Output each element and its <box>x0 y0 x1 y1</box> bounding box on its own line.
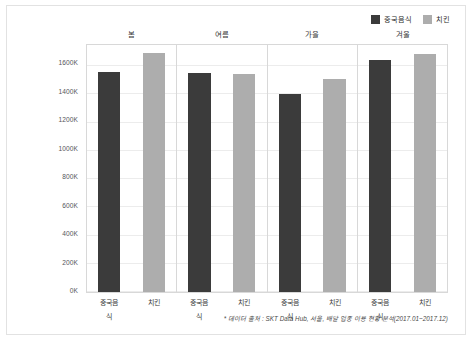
facet-header-1: 봄 <box>86 28 177 42</box>
x-axis-group-2: 중국음식치킨 <box>177 296 268 310</box>
bar-slot <box>188 45 210 292</box>
bar-slot <box>369 45 391 292</box>
facet-panel-3 <box>268 45 358 292</box>
x-tick-label-여름-중국음식: 중국음식 <box>188 296 211 310</box>
x-tick-label-봄-치킨: 치킨 <box>143 296 166 310</box>
bar-slot <box>98 45 120 292</box>
bar-slot <box>323 45 345 292</box>
facet-panel-1 <box>87 45 177 292</box>
x-axis-group-1: 중국음식치킨 <box>86 296 177 310</box>
legend-entry-2[interactable]: 치킨 <box>423 15 450 24</box>
bar-가을-중국음식[interactable] <box>279 94 301 292</box>
y-tick-label-7: 1400K <box>58 87 78 94</box>
bar-slot <box>233 45 255 292</box>
bar-봄-치킨[interactable] <box>143 53 165 292</box>
y-tick-label-2: 400K <box>62 230 78 237</box>
x-tick-label-여름-치킨: 치킨 <box>233 296 256 310</box>
bar-겨울-치킨[interactable] <box>414 54 436 292</box>
legend-swatch-icon <box>371 15 380 24</box>
legend-label: 치킨 <box>436 15 450 24</box>
x-axis: 중국음식치킨중국음식치킨중국음식치킨중국음식치킨 <box>86 296 448 310</box>
x-axis-group-4: 중국음식치킨 <box>358 296 449 310</box>
facet-header-3: 가을 <box>267 28 358 42</box>
facet-header-4: 겨울 <box>358 28 449 42</box>
plot-area <box>86 44 448 293</box>
bar-가을-치킨[interactable] <box>323 79 345 292</box>
y-tick-label-0: 0K <box>70 287 78 294</box>
bar-slot <box>279 45 301 292</box>
x-tick-label-봄-중국음식: 중국음식 <box>97 296 120 310</box>
bar-slot <box>143 45 165 292</box>
y-tick-label-1: 200K <box>62 258 78 265</box>
x-axis-group-3: 중국음식치킨 <box>267 296 358 310</box>
y-axis: 0K200K400K600K800K1000K1200K1400K1600K <box>46 44 82 293</box>
bar-봄-중국음식[interactable] <box>98 72 120 292</box>
y-tick-label-3: 600K <box>62 201 78 208</box>
y-tick-label-8: 1600K <box>58 59 78 66</box>
y-tick-label-6: 1200K <box>58 116 78 123</box>
y-tick-label-4: 800K <box>62 173 78 180</box>
facet-header-2: 여름 <box>177 28 268 42</box>
legend-swatch-icon <box>423 15 432 24</box>
legend-entry-1[interactable]: 중국음식 <box>371 15 412 24</box>
y-tick-label-5: 1000K <box>58 144 78 151</box>
facet-header-strip: 봄여름가을겨울 <box>86 28 448 42</box>
source-footnote: * 데이터 출처 : SKT Data Hub, 서울, 배달 업종 이용 현황… <box>224 314 448 323</box>
x-tick-label-가을-중국음식: 중국음식 <box>278 296 301 310</box>
facet-panel-2 <box>177 45 267 292</box>
bar-겨울-중국음식[interactable] <box>369 60 391 292</box>
chart-legend: 중국음식치킨 <box>371 13 450 25</box>
bar-slot <box>414 45 436 292</box>
x-tick-label-겨울-중국음식: 중국음식 <box>369 296 392 310</box>
x-tick-label-가을-치킨: 치킨 <box>324 296 347 310</box>
x-tick-label-겨울-치킨: 치킨 <box>414 296 437 310</box>
facet-panel-4 <box>358 45 447 292</box>
legend-label: 중국음식 <box>384 15 412 24</box>
chart-figure: 중국음식치킨 봄여름가을겨울 0K200K400K600K800K1000K12… <box>0 0 472 341</box>
bar-여름-치킨[interactable] <box>233 74 255 292</box>
facet-panels <box>87 45 447 292</box>
bar-여름-중국음식[interactable] <box>188 73 210 292</box>
